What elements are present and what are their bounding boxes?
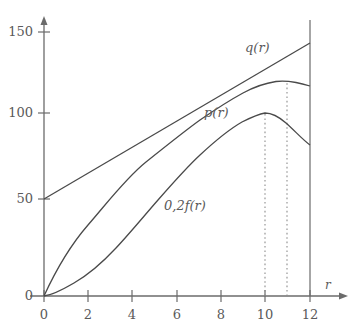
- y-tick-label-150: 150: [0, 24, 33, 39]
- x-tick-label-8: 8: [207, 307, 235, 322]
- chart-canvas: [0, 0, 354, 331]
- y-axis-arrowhead: [41, 16, 48, 25]
- curve-label-q: q(r): [245, 40, 270, 55]
- y-tick-label-0: 0: [0, 288, 33, 303]
- x-tick-label-4: 4: [118, 307, 146, 322]
- curve-label-f: 0,2f(r): [164, 198, 206, 213]
- y-tick-label-100: 100: [0, 105, 33, 120]
- curve-q: [44, 43, 310, 199]
- x-tick-label-2: 2: [74, 307, 102, 322]
- x-tick-label-6: 6: [163, 307, 191, 322]
- x-axis-label: r: [325, 278, 331, 292]
- x-tick-label-0: 0: [30, 307, 58, 322]
- x-axis-arrowhead: [339, 293, 348, 300]
- x-tick-label-10: 10: [251, 307, 279, 322]
- y-tick-label-50: 50: [0, 191, 33, 206]
- x-tick-label-12: 12: [296, 307, 324, 322]
- chart-figure: 150 100 50 0 0 2 4 6 8 10 12 r q(r) p(r)…: [0, 0, 354, 331]
- curve-label-p: p(r): [204, 105, 229, 120]
